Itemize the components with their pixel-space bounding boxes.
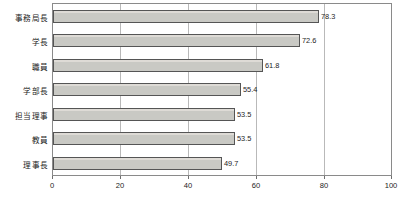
bar-value-6: 49.7 — [224, 159, 238, 168]
bar-6 — [53, 157, 222, 170]
bar-3 — [53, 83, 241, 96]
xtick-3 — [256, 176, 257, 179]
xtick-label-4: 80 — [320, 181, 328, 190]
bars-layer: 78.3 72.6 61.8 55.4 53.5 53.5 49.7 — [52, 3, 392, 176]
bar-4 — [53, 108, 235, 121]
xtick-label-1: 20 — [116, 181, 124, 190]
bar-value-2: 61.8 — [265, 61, 279, 70]
bar-highlight — [54, 158, 221, 160]
category-label-2: 職員 — [0, 63, 48, 72]
category-label-1: 学長 — [0, 38, 48, 47]
xtick-5 — [391, 176, 392, 179]
bar-2 — [53, 59, 263, 72]
x-axis: 0 20 40 60 80 100 — [52, 176, 392, 202]
bar-5 — [53, 132, 235, 145]
bar-highlight — [54, 84, 240, 86]
xtick-4 — [324, 176, 325, 179]
bar-highlight — [54, 60, 262, 62]
bar-value-1: 72.6 — [302, 36, 316, 45]
xtick-label-2: 40 — [184, 181, 192, 190]
bar-value-3: 55.4 — [243, 85, 257, 94]
bar-1 — [53, 34, 300, 47]
xtick-1 — [120, 176, 121, 179]
xtick-label-5: 100 — [385, 181, 398, 190]
xtick-0 — [52, 176, 53, 179]
category-label-0: 事務局長 — [0, 14, 48, 23]
bar-highlight — [54, 133, 234, 135]
category-label-3: 学部長 — [0, 87, 48, 96]
category-label-4: 担当理事 — [0, 112, 48, 121]
category-axis: 事務局長 学長 職員 学部長 担当理事 教員 理事長 — [0, 3, 50, 176]
bar-highlight — [54, 109, 234, 111]
bar-highlight — [54, 11, 318, 13]
bar-chart: 事務局長 学長 職員 学部長 担当理事 教員 理事長 78.3 72.6 61.… — [0, 0, 413, 207]
category-label-6: 理事長 — [0, 161, 48, 170]
xtick-label-3: 60 — [252, 181, 260, 190]
xtick-2 — [188, 176, 189, 179]
bar-0 — [53, 10, 319, 23]
bar-highlight — [54, 35, 299, 37]
bar-value-5: 53.5 — [237, 134, 251, 143]
bar-value-4: 53.5 — [237, 110, 251, 119]
bar-value-0: 78.3 — [321, 12, 335, 21]
xtick-label-0: 0 — [50, 181, 54, 190]
category-label-5: 教員 — [0, 136, 48, 145]
